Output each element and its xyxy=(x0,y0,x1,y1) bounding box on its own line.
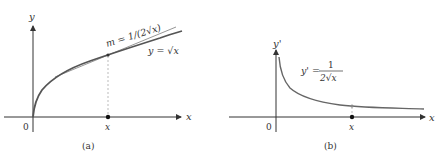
curve-label-a: y = √x xyxy=(147,45,179,56)
origin-label-b: 0 xyxy=(266,122,272,132)
x-point-b xyxy=(350,115,354,119)
point-label-a: x xyxy=(105,122,110,132)
x-axis-label-b: x xyxy=(429,112,435,123)
derivative-label-lhs: y' = xyxy=(300,65,320,76)
x-axis-label-a: x xyxy=(186,111,192,122)
derivative-label-num: 1 xyxy=(328,60,334,70)
origin-label-a: 0 xyxy=(23,122,29,132)
panel-a: y x 0 x m = 1/(2√x) y = √x (a) xyxy=(4,11,192,151)
derivative-label-den: 2√x xyxy=(319,73,337,83)
point-label-b: x xyxy=(349,122,354,132)
x-point-a xyxy=(106,115,110,119)
figure: y x 0 x m = 1/(2√x) y = √x (a) y' x 0 x … xyxy=(0,0,438,161)
y-axis-label-b: y' xyxy=(272,38,281,49)
tangent-point xyxy=(106,53,109,56)
y-axis-label-a: y xyxy=(28,11,35,22)
caption-b: (b) xyxy=(324,141,337,151)
panel-b: y' x 0 x y' = 1 2√x (b) xyxy=(229,38,435,151)
derivative-point xyxy=(350,104,353,107)
caption-a: (a) xyxy=(82,141,94,151)
